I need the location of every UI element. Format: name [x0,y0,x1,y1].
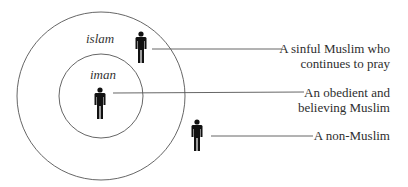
obedient-muslim-figure-icon [95,87,106,119]
obedient-muslim-callout-line2: believing Muslim [298,100,390,115]
non-muslim-figure-icon [192,119,203,151]
obedient-muslim-callout-line1: An obedient and [298,85,390,100]
sinful-muslim-callout-line1: A sinful Muslim who [279,41,390,56]
sinful-muslim-callout: A sinful Muslim who continues to pray [279,41,390,71]
obedient-muslim-leader-line [113,92,304,93]
iman-label: iman [90,67,116,83]
sinful-muslim-callout-line2: continues to pray [279,56,390,71]
non-muslim-callout: A non-Muslim [314,128,390,143]
obedient-muslim-callout: An obedient and believing Muslim [298,85,390,115]
islam-label: islam [86,31,114,47]
sinful-muslim-figure-icon [136,31,147,63]
